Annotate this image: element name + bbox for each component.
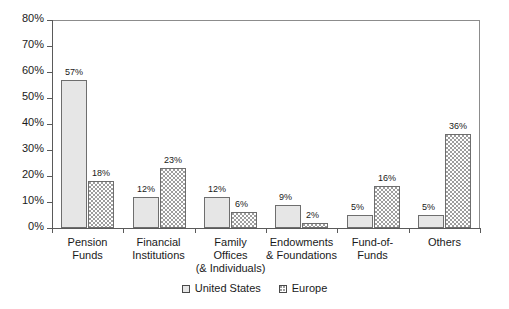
category-label-line: Pension [52, 236, 123, 249]
legend-label: Europe [292, 283, 327, 294]
legend-label: United States [195, 283, 261, 294]
legend-item-europe[interactable]: Europe [279, 283, 327, 294]
category-label-2: FinancialInstitutions [123, 236, 194, 262]
legend-swatch-united-states [182, 285, 190, 293]
category-label-line: Family [195, 236, 266, 249]
category-label-line: Fund-of- [337, 236, 408, 249]
category-label-3: FamilyOffices(& Individuals) [195, 236, 266, 275]
category-label-5: Fund-of-Funds [337, 236, 408, 262]
category-label-line: Institutions [123, 249, 194, 262]
x-axis-tick [480, 228, 481, 233]
bar-europe[interactable] [445, 134, 471, 228]
bar-group-6 [0, 20, 509, 228]
category-label-4: Endowments& Foundations [266, 236, 337, 262]
bar-chart: 0%10%20%30%40%50%60%70%80% 57%18%12%23%1… [0, 0, 509, 309]
category-label-6: Others [409, 236, 480, 249]
category-label-line: Financial [123, 236, 194, 249]
category-label-line: (& Individuals) [195, 262, 266, 275]
x-axis-tick [337, 228, 338, 233]
x-axis-tick [123, 228, 124, 233]
category-label-line: Endowments [266, 236, 337, 249]
legend-swatch-europe [279, 285, 287, 293]
category-label-line: & Foundations [266, 249, 337, 262]
legend-item-united-states[interactable]: United States [182, 283, 261, 294]
category-label-line: Funds [337, 249, 408, 262]
x-axis-tick [195, 228, 196, 233]
x-axis-tick [409, 228, 410, 233]
category-label-1: PensionFunds [52, 236, 123, 262]
category-label-line: Funds [52, 249, 123, 262]
category-label-line: Offices [195, 249, 266, 262]
x-axis-tick [266, 228, 267, 233]
category-label-line: Others [409, 236, 480, 249]
bar-united-states[interactable] [418, 215, 444, 228]
x-axis-tick [52, 228, 53, 233]
chart-legend: United StatesEurope [0, 283, 509, 294]
